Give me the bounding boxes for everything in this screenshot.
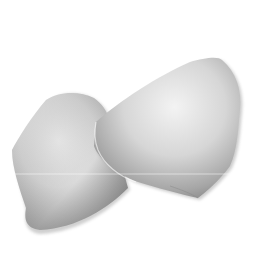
- petals-illustration: [0, 0, 261, 265]
- petals-photo: [0, 0, 261, 265]
